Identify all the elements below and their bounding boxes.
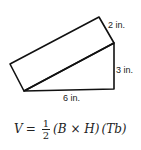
base-label: 6 in. bbox=[63, 93, 80, 103]
formula-lhs: V bbox=[14, 122, 23, 136]
volume-formula: V = 1 2 (B × H) (Tb) bbox=[14, 112, 134, 146]
fraction-numerator: 1 bbox=[42, 118, 50, 130]
height-label: 3 in. bbox=[116, 65, 133, 75]
formula-fraction: 1 2 bbox=[42, 118, 50, 141]
formula-factor-tb: (Tb) bbox=[101, 122, 126, 136]
formula-factor-base-height: (B × H) bbox=[53, 122, 99, 136]
depth-label: 2 in. bbox=[108, 20, 125, 30]
formula-equals: = bbox=[26, 122, 36, 136]
prism-top-face bbox=[10, 17, 114, 91]
prism-diagram: 2 in. 3 in. 6 in. bbox=[0, 0, 141, 110]
fraction-denominator: 2 bbox=[43, 130, 49, 141]
